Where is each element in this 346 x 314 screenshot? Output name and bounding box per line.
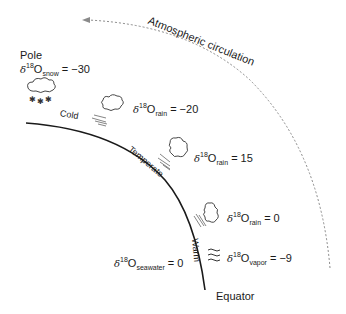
equator-label: Equator <box>216 290 255 302</box>
seawater-isotope-label: δ18Oseawater = 0 <box>114 256 183 271</box>
svg-text:✱: ✱ <box>37 97 44 106</box>
circulation-arrow <box>88 20 330 268</box>
snow-cloud-icon <box>28 78 56 93</box>
rain-temperate-isotope-label: δ18Orain = 15 <box>194 151 253 166</box>
arrowhead-icon <box>82 17 90 23</box>
snow-isotope-label: δ18Osnow = −30 <box>20 62 90 77</box>
svg-text:✱: ✱ <box>29 95 36 104</box>
rain-cloud-warm-icon <box>194 203 218 227</box>
evaporation-icon <box>208 249 220 261</box>
svg-text:✱: ✱ <box>45 95 52 104</box>
snowflakes-icon: ✱✱✱ <box>29 95 52 106</box>
pole-label: Pole <box>20 49 42 61</box>
rain-cloud-temperate-icon <box>158 137 188 170</box>
rain-warm-isotope-label: δ18Orain = 0 <box>227 211 280 226</box>
rain-cloud-cold-icon <box>92 95 123 126</box>
vapor-isotope-label: δ18Ovapor = −9 <box>227 251 292 266</box>
zone-warm-label: Warm <box>190 238 202 262</box>
rain-cold-isotope-label: δ18Orain = −20 <box>133 102 198 117</box>
